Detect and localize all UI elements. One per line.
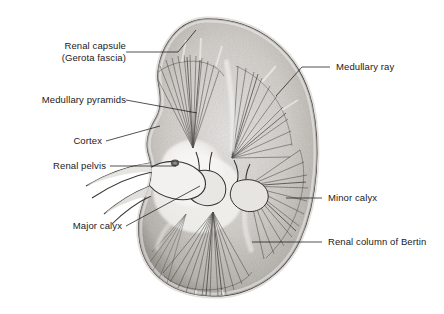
major-calyx (230, 180, 268, 212)
kidney-anatomy-figure: Renal capsule (Gerota fascia) Medullary … (0, 0, 444, 314)
label-renal-pelvis: Renal pelvis (26, 160, 106, 172)
label-renal-capsule-line2: (Gerota fascia) (16, 52, 126, 64)
label-renal-capsule-line1: Renal capsule (16, 40, 126, 52)
label-renal-column-of-bertin: Renal column of Bertin (328, 236, 426, 248)
label-cortex: Cortex (26, 135, 102, 147)
label-major-calyx: Major calyx (40, 220, 122, 232)
label-renal-capsule: Renal capsule (Gerota fascia) (16, 40, 126, 63)
label-medullary-pyramids: Medullary pyramids (6, 94, 126, 106)
label-medullary-ray: Medullary ray (336, 61, 394, 73)
label-minor-calyx: Minor calyx (328, 192, 377, 204)
